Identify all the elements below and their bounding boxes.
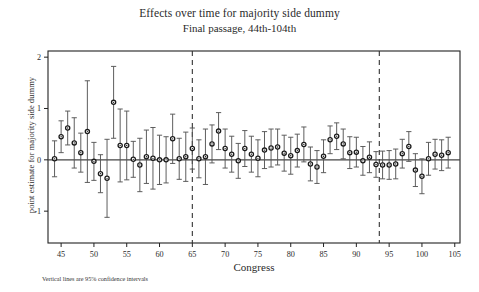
x-axis-ticks: 4550556065707580859095100105 <box>57 243 461 259</box>
data-point-center <box>93 161 94 162</box>
data-point-center <box>316 166 317 167</box>
data-point-center <box>428 158 429 159</box>
data-point-center <box>54 158 55 159</box>
data-point-center <box>421 176 422 177</box>
x-tick-label: 70 <box>221 250 229 259</box>
data-point-center <box>323 156 324 157</box>
data-point-center <box>60 136 61 137</box>
data-point-center <box>192 148 193 149</box>
data-point-center <box>80 152 81 153</box>
plot-frame <box>48 51 460 243</box>
data-point-center <box>74 142 75 143</box>
data-point-center <box>388 164 389 165</box>
data-point-center <box>356 151 357 152</box>
x-tick-label: 55 <box>123 250 131 259</box>
data-point-center <box>415 169 416 170</box>
chart-plot-area: 4550556065707580859095100105 210-1 <box>0 0 479 292</box>
data-point-center <box>408 146 409 147</box>
data-point-center <box>329 139 330 140</box>
data-point-center <box>120 145 121 146</box>
data-point-center <box>126 145 127 146</box>
data-point-center <box>251 154 252 155</box>
data-point-center <box>185 156 186 157</box>
data-point-center <box>139 164 140 165</box>
data-point-center <box>284 153 285 154</box>
x-tick-label: 100 <box>416 250 428 259</box>
data-point-center <box>375 164 376 165</box>
data-point-center <box>224 148 225 149</box>
plot-border <box>48 51 460 243</box>
data-point-center <box>113 102 114 103</box>
data-point-center <box>67 127 68 128</box>
x-tick-label: 50 <box>90 250 98 259</box>
y-tick-label: 2 <box>37 53 41 62</box>
data-point-center <box>395 163 396 164</box>
data-point-center <box>349 152 350 153</box>
data-point-center <box>277 146 278 147</box>
data-point-center <box>198 158 199 159</box>
y-tick-label: -1 <box>34 207 41 216</box>
data-point-center <box>310 163 311 164</box>
vertical-dashed-reference-lines <box>192 51 379 243</box>
data-point-center <box>218 130 219 131</box>
data-point-center <box>100 173 101 174</box>
x-tick-label: 65 <box>188 250 196 259</box>
data-point-center <box>402 153 403 154</box>
data-point-center <box>211 143 212 144</box>
x-tick-label: 105 <box>449 250 461 259</box>
x-tick-label: 95 <box>385 250 393 259</box>
x-tick-label: 85 <box>319 250 327 259</box>
y-tick-label: 0 <box>37 156 41 165</box>
data-point-center <box>448 152 449 153</box>
data-point-center <box>179 158 180 159</box>
data-point-center <box>297 150 298 151</box>
data-point-center <box>290 155 291 156</box>
data-point-center <box>165 159 166 160</box>
data-point-center <box>172 138 173 139</box>
data-point-center <box>238 160 239 161</box>
data-point-center <box>231 154 232 155</box>
data-point-center <box>382 164 383 165</box>
data-point-center <box>205 156 206 157</box>
y-tick-label: 1 <box>37 104 41 113</box>
data-point-center <box>343 143 344 144</box>
data-point-center <box>146 156 147 157</box>
data-point-center <box>369 157 370 158</box>
x-tick-label: 75 <box>254 250 262 259</box>
y-axis-ticks: 210-1 <box>34 53 48 216</box>
chart-page: Effects over time for majority side dumm… <box>0 0 479 292</box>
data-point-center <box>270 147 271 148</box>
data-point-center <box>336 136 337 137</box>
x-tick-label: 60 <box>155 250 163 259</box>
x-tick-label: 80 <box>287 250 295 259</box>
data-point-center <box>257 158 258 159</box>
data-point-center <box>87 131 88 132</box>
error-bars-group <box>52 66 451 217</box>
x-tick-label: 45 <box>57 250 65 259</box>
data-point-center <box>434 154 435 155</box>
data-point-center <box>159 159 160 160</box>
data-point-center <box>106 178 107 179</box>
data-point-center <box>133 159 134 160</box>
x-tick-label: 90 <box>352 250 360 259</box>
data-point-center <box>152 158 153 159</box>
data-point-center <box>244 148 245 149</box>
data-point-center <box>303 144 304 145</box>
data-point-center <box>264 149 265 150</box>
data-point-center <box>362 160 363 161</box>
data-point-center <box>441 155 442 156</box>
